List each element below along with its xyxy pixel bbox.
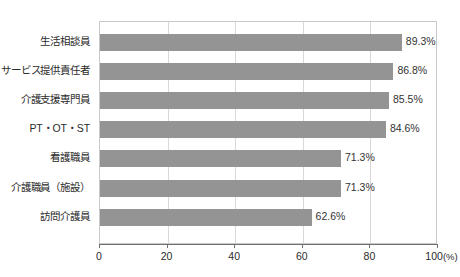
bar bbox=[100, 34, 402, 51]
x-axis-tick-label: 60 bbox=[296, 250, 308, 262]
bar bbox=[100, 209, 312, 226]
x-axis-tick bbox=[437, 244, 438, 248]
category-label: 看護職員 bbox=[50, 149, 90, 166]
category-label: 訪問介護員 bbox=[40, 208, 90, 225]
category-label: 介護支援専門員 bbox=[21, 91, 90, 108]
bar bbox=[100, 63, 393, 80]
x-axis-tick-label: 40 bbox=[228, 250, 240, 262]
category-label: 介護職員（施設） bbox=[11, 179, 90, 196]
plot-area bbox=[99, 21, 437, 244]
x-axis-tick bbox=[369, 244, 370, 248]
x-axis-tick bbox=[302, 244, 303, 248]
x-axis-tick-label: 80 bbox=[364, 250, 376, 262]
category-label: サービス提供責任者 bbox=[1, 62, 90, 79]
bar bbox=[100, 150, 341, 167]
bar bbox=[100, 121, 386, 138]
x-axis-tick-label: 0 bbox=[96, 250, 102, 262]
bar bbox=[100, 92, 389, 109]
horizontal-bar-chart: 生活相談員サービス提供責任者介護支援専門員PT・OT・ST看護職員介護職員（施設… bbox=[0, 0, 460, 277]
x-axis-tick-label: 100(%) bbox=[425, 250, 457, 262]
category-label: PT・OT・ST bbox=[29, 120, 90, 137]
category-label: 生活相談員 bbox=[40, 33, 90, 50]
x-axis-line bbox=[99, 244, 437, 245]
x-axis-tick bbox=[99, 244, 100, 248]
bar bbox=[100, 180, 341, 197]
category-axis-labels: 生活相談員サービス提供責任者介護支援専門員PT・OT・ST看護職員介護職員（施設… bbox=[0, 21, 96, 244]
x-axis-tick bbox=[167, 244, 168, 248]
x-axis-tick-label: 20 bbox=[161, 250, 173, 262]
x-axis-tick bbox=[234, 244, 235, 248]
